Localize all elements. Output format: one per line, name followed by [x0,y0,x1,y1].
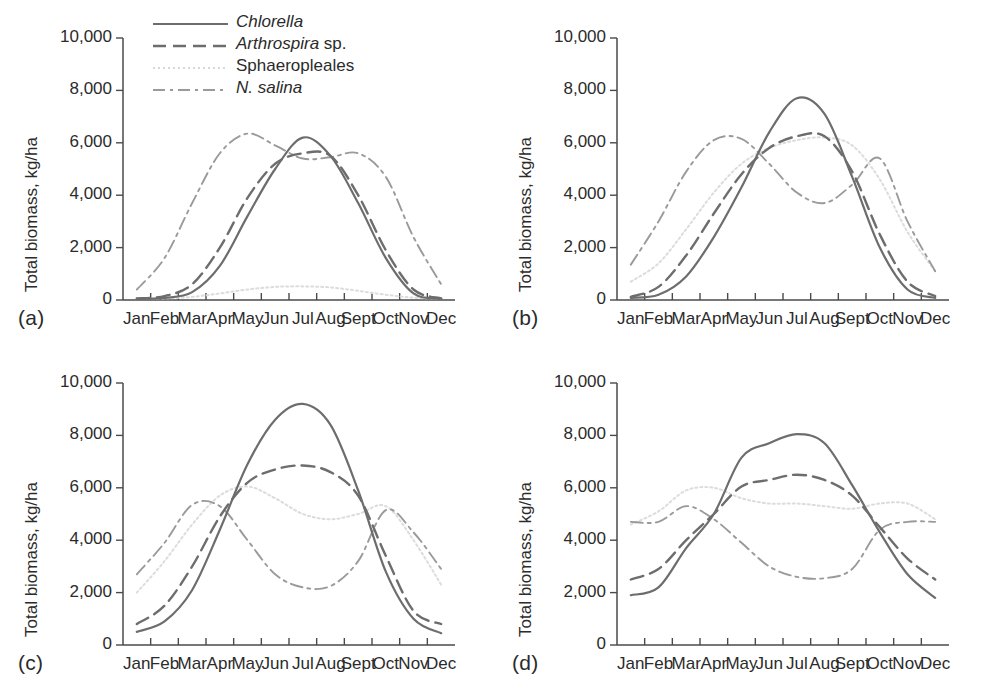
series-line-arthrospira-sp [137,465,441,624]
series-line-n-salina [137,501,441,589]
y-axis-tick-label: 4,000 [563,184,606,204]
y-axis-tick-label: 0 [597,634,606,654]
y-axis-tick-label: 10,000 [60,372,112,392]
series-line-n-salina [631,136,935,271]
y-axis-tick-label: 4,000 [563,529,606,549]
y-axis-title: Total biomass, kg/ha [22,482,42,637]
y-axis-tick-label: 10,000 [554,372,606,392]
legend-label-italic: Arthrospira [236,34,319,53]
series-line-sphaeropleales [631,137,935,281]
legend-label: Arthrospira sp. [236,34,347,54]
y-axis-tick-label: 6,000 [563,477,606,497]
plot-area [0,345,494,685]
chart-panel-a: 02,0004,0006,0008,00010,000Total biomass… [0,0,494,345]
series-line-n-salina [631,506,935,579]
legend-label-italic: N. salina [236,78,302,97]
legend-label: N. salina [236,78,302,98]
series-line-chlorella [137,404,441,633]
y-axis-tick-label: 8,000 [563,424,606,444]
axes [610,383,949,645]
x-axis-tick-label: Dec [423,654,459,674]
chart-panel-c: 02,0004,0006,0008,00010,000Total biomass… [0,345,494,685]
y-axis-tick-label: 0 [103,634,112,654]
series-line-sphaeropleales [137,486,441,592]
chart-panel-d: 02,0004,0006,0008,00010,000Total biomass… [494,345,987,685]
panel-label: (b) [512,306,539,330]
chart-panel-b: 02,0004,0006,0008,00010,000Total biomass… [494,0,987,345]
panel-label: (c) [18,651,43,675]
y-axis-tick-label: 8,000 [563,79,606,99]
legend-label: Chlorella [236,12,303,32]
y-axis-tick-label: 0 [597,289,606,309]
panel-label: (d) [512,651,539,675]
legend-label-italic: Chlorella [236,12,303,31]
y-axis-title: Total biomass, kg/ha [516,137,536,292]
figure-four-panel-biomass-chart: 02,0004,0006,0008,00010,000Total biomass… [0,0,987,685]
y-axis-tick-label: 6,000 [69,477,112,497]
y-axis-tick-label: 2,000 [563,237,606,257]
x-axis-tick-label: Dec [917,309,953,329]
y-axis-tick-label: 2,000 [69,582,112,602]
plot-area [494,345,987,685]
y-axis-tick-label: 4,000 [69,529,112,549]
y-axis-title: Total biomass, kg/ha [516,482,536,637]
plot-area [494,0,987,345]
series-line-arthrospira-sp [631,133,935,297]
y-axis-tick-label: 10,000 [554,27,606,47]
y-axis-tick-label: 2,000 [563,582,606,602]
legend-label: Sphaeropleales [236,56,354,76]
x-axis-tick-label: Dec [917,654,953,674]
y-axis-tick-label: 8,000 [69,424,112,444]
y-axis-tick-label: 6,000 [563,132,606,152]
series-line-sphaeropleales [631,487,935,524]
